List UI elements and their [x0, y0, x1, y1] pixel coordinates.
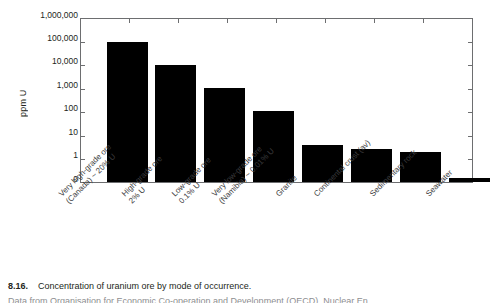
y-axis-tick-right: [468, 136, 472, 137]
x-axis-tick-top: [129, 19, 130, 23]
y-tick-label: 10,000: [20, 57, 78, 66]
y-axis-tick-right: [468, 89, 472, 90]
y-axis-tick: [81, 65, 85, 66]
y-tick-label: 100: [20, 104, 78, 113]
x-axis-tick-top: [227, 19, 228, 23]
figure-caption: 8.16.Concentration of uranium ore by mod…: [8, 281, 484, 292]
bar-seawater: [449, 178, 490, 182]
y-axis-tick: [81, 159, 85, 160]
y-tick-label: 1,000,000: [20, 11, 78, 20]
y-tick-label: 1,000: [20, 81, 78, 90]
y-axis-tick: [81, 42, 85, 43]
figure-caption-text: Concentration of uranium ore by mode of …: [38, 281, 251, 291]
figure-caption-continuation: Data from Organisation for Economic Co-o…: [8, 296, 484, 303]
x-axis-tick-top: [325, 19, 326, 23]
x-axis-tick-top: [423, 19, 424, 23]
y-axis-tick: [81, 89, 85, 90]
figure-number: 8.16.: [8, 281, 28, 291]
y-tick-label: 1: [20, 151, 78, 160]
x-axis-tick-top: [178, 19, 179, 23]
x-axis-tick-top: [374, 19, 375, 23]
y-axis-tick-right: [468, 42, 472, 43]
y-axis-tick-right: [468, 159, 472, 160]
y-axis-tick: [81, 136, 85, 137]
y-axis-tick-right: [468, 112, 472, 113]
x-axis-category-labels: Very high-grade ore (Canada) ~ 20% U Hig…: [0, 186, 492, 272]
y-tick-label: 100,000: [20, 34, 78, 43]
y-axis-tick: [81, 112, 85, 113]
y-axis-tick-labels: 1,000,000 100,000 10,000 1,000 100 10 1 …: [20, 14, 78, 186]
x-axis-tick-top: [276, 19, 277, 23]
y-axis-tick-right: [468, 65, 472, 66]
y-tick-label: 10: [20, 128, 78, 137]
uranium-concentration-figure: ppm U 1,000,000 100,000 10,000 1,000 100…: [0, 0, 492, 272]
